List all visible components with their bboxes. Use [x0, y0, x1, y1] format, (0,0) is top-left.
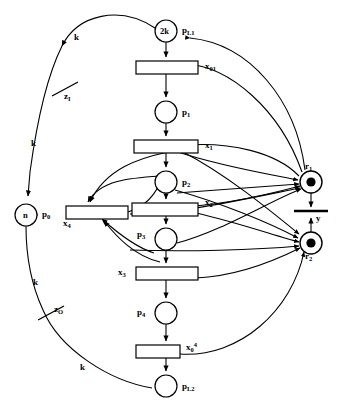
- place-label-r2: r2: [305, 252, 312, 262]
- place-label-pL1: pL1: [182, 26, 195, 36]
- arc-r1-to-x1: [186, 144, 299, 176]
- arc-x01-to-r1-a: [185, 64, 302, 172]
- arc-x3-in-to-x4: [104, 221, 160, 262]
- transition-label-x01: x01: [205, 62, 216, 72]
- arc-x04-to-r2: [180, 252, 304, 354]
- transition-x04[interactable]: [136, 345, 180, 358]
- petri-net-diagram: 2k n pL1 p1 p2 p3 p4 pL2 p0 r1 r2 x01 x1…: [0, 0, 338, 420]
- arc-x1-to-r1: [178, 152, 298, 180]
- arc-weight-k-lowmid: k: [33, 278, 38, 287]
- arc-weight-k-upmid: k: [31, 139, 36, 148]
- arc-x1-to-r2: [183, 152, 299, 234]
- transition-label-x3: x3: [118, 268, 126, 278]
- token-r1: [306, 177, 315, 186]
- transition-x4[interactable]: [66, 206, 128, 219]
- place-p2[interactable]: [155, 171, 177, 193]
- place-label-p2: p2: [182, 178, 190, 188]
- marking-pL1: 2k: [160, 26, 169, 36]
- place-label-p4: p4: [137, 308, 145, 318]
- transition-x01[interactable]: [136, 61, 198, 74]
- arc-p0-inflow-head: [28, 172, 30, 196]
- arc-x2-to-r2: [196, 213, 299, 242]
- place-p1[interactable]: [155, 101, 177, 123]
- transition-label-zI: zI: [64, 92, 71, 102]
- arc-zO-to-p0: [26, 226, 43, 310]
- transition-label-x2: x2: [205, 198, 213, 208]
- transition-label-y: y: [316, 214, 321, 223]
- transition-x2[interactable]: [132, 203, 198, 216]
- transition-label-x04: x04: [186, 342, 197, 353]
- place-p3[interactable]: [155, 228, 177, 250]
- transition-bar-group: [38, 82, 78, 320]
- arc-weight-k-top: k: [74, 33, 79, 42]
- transition-label-zO: zO: [54, 305, 63, 315]
- transition-x1[interactable]: [134, 140, 198, 153]
- arc-weight-k-bottom: k: [80, 363, 85, 372]
- place-p4[interactable]: [155, 302, 177, 324]
- marking-p0: n: [23, 210, 28, 220]
- petri-net-canvas: [0, 0, 338, 420]
- arc-p0-to-zI-upper: [30, 46, 62, 172]
- token-r2: [306, 238, 315, 247]
- arc-group-r1-r2-chain: [294, 193, 328, 232]
- transition-nodes: [66, 61, 198, 358]
- place-pL2[interactable]: [155, 375, 177, 397]
- arc-x3-to-r2: [196, 248, 300, 278]
- arc-x3-in-to-r2: [130, 246, 299, 251]
- transition-label-x1: x1: [205, 141, 213, 151]
- transition-label-x4: x4: [63, 219, 71, 229]
- place-label-p0: p0: [42, 210, 50, 220]
- arc-p2-to-x4: [88, 176, 160, 202]
- place-label-p1: p1: [182, 108, 190, 118]
- place-label-p3: p3: [137, 230, 145, 240]
- arc-p3-to-x4: [102, 219, 154, 253]
- transition-x3[interactable]: [136, 267, 198, 280]
- place-label-r1: r1: [305, 162, 312, 172]
- place-label-pL2: pL2: [182, 382, 195, 392]
